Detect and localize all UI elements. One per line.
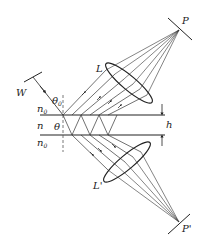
label-theta0: θ0 xyxy=(52,95,62,107)
label-w: W xyxy=(16,87,27,98)
label-l: L xyxy=(95,63,103,74)
reflected-rays xyxy=(63,70,147,115)
label-p-prime: P' xyxy=(181,223,191,234)
label-h: h xyxy=(166,119,172,130)
label-p: P xyxy=(181,15,189,26)
label-n0-top: n0 xyxy=(37,103,47,115)
label-n0-bottom: n0 xyxy=(37,137,47,149)
thin-film-interference-diagram: P P' L L' W n0 n n0 θ0 θ h xyxy=(0,0,209,251)
transmitted-rays xyxy=(72,135,141,170)
label-n: n xyxy=(37,120,43,131)
label-theta: θ xyxy=(54,121,60,132)
label-l-prime: L' xyxy=(92,180,102,191)
internal-reflections xyxy=(63,115,117,135)
converging-rays-to-p-prime xyxy=(108,152,179,222)
